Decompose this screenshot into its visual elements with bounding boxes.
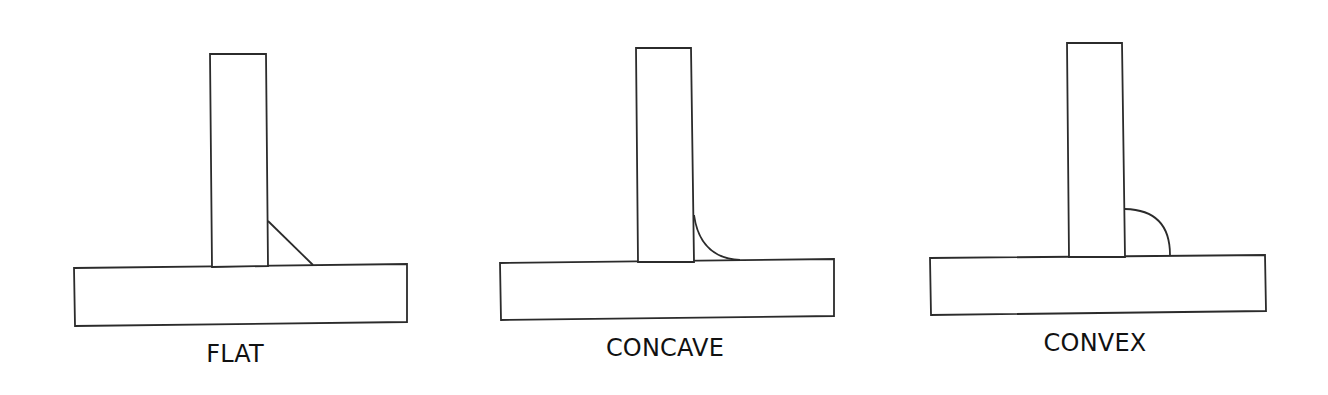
joint-label-concave: CONCAVE bbox=[606, 334, 724, 362]
base-plate bbox=[74, 264, 407, 326]
joint-label-flat: FLAT bbox=[206, 340, 264, 368]
weld-profile-diagram: FLAT CONCAVE CONVEX bbox=[0, 0, 1328, 395]
joint-label-convex: CONVEX bbox=[1044, 329, 1147, 357]
weld-convex-profile bbox=[1125, 209, 1170, 255]
vertical-plate bbox=[1067, 43, 1125, 257]
joint-concave: CONCAVE bbox=[500, 48, 834, 362]
vertical-plate bbox=[636, 48, 694, 262]
base-plate bbox=[930, 255, 1266, 315]
joint-convex: CONVEX bbox=[930, 43, 1266, 357]
vertical-plate bbox=[210, 54, 268, 267]
base-plate bbox=[500, 259, 834, 320]
joint-flat: FLAT bbox=[74, 54, 407, 368]
weld-flat-profile bbox=[268, 221, 313, 265]
weld-concave-profile bbox=[694, 215, 740, 260]
